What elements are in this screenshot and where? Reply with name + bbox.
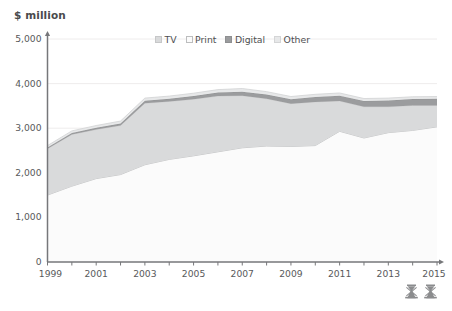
x-tick-label: 2007 — [222, 268, 262, 279]
legend-item-other[interactable]: Other — [274, 34, 310, 45]
legend-label-other: Other — [284, 34, 310, 45]
x-tick-label: 2015 — [414, 268, 452, 279]
x-tick-label: 2005 — [174, 268, 214, 279]
y-tick-label: 4,000 — [6, 78, 42, 89]
x-tick-label: 2001 — [76, 268, 116, 279]
legend-label-digital: Digital — [235, 34, 265, 45]
mark-left-icon — [404, 283, 419, 300]
x-tick-label: 2009 — [271, 268, 311, 279]
legend-swatch-digital — [225, 36, 232, 43]
y-tick-label: 3,000 — [6, 122, 42, 133]
chart-legend: TV Print Digital Other — [155, 34, 310, 45]
x-tick-label: 2011 — [320, 268, 360, 279]
x-tick-label: 2013 — [368, 268, 408, 279]
legend-swatch-print — [186, 36, 193, 43]
legend-label-tv: TV — [165, 34, 177, 45]
legend-swatch-other — [274, 36, 281, 43]
legend-item-tv[interactable]: TV — [155, 34, 177, 45]
legend-swatch-tv — [155, 36, 162, 43]
y-tick-label: 2,000 — [6, 167, 42, 178]
legend-item-digital[interactable]: Digital — [225, 34, 265, 45]
plot-area — [0, 0, 452, 311]
x-tick-label: 1999 — [31, 268, 71, 279]
stacked-area-chart: $ million TV Print Digital Other 01,0002… — [0, 0, 452, 311]
legend-item-print[interactable]: Print — [186, 34, 217, 45]
y-tick-label: 5,000 — [6, 33, 42, 44]
corner-marks — [404, 283, 438, 300]
area-series-group — [48, 89, 438, 262]
legend-label-print: Print — [195, 34, 216, 45]
mark-right-icon — [423, 283, 438, 300]
y-tick-label: 0 — [6, 256, 42, 267]
y-tick-label: 1,000 — [6, 211, 42, 222]
x-tick-label: 2003 — [125, 268, 165, 279]
